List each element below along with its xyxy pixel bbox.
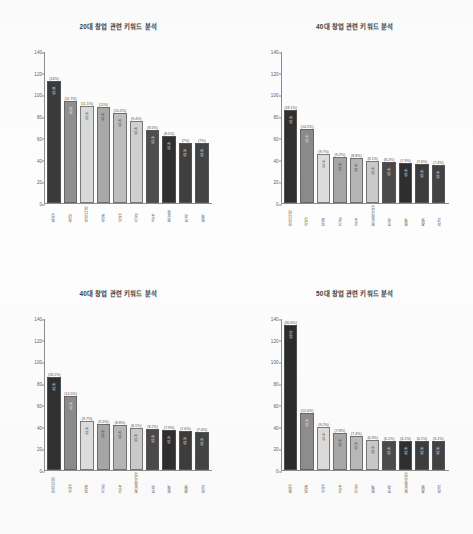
bar-percent-label: (9.7%) bbox=[82, 417, 93, 421]
x-axis-line bbox=[281, 203, 449, 204]
bar-percent-label: (8.1%) bbox=[367, 157, 378, 161]
bar[interactable]: (7.9%)사업 bbox=[399, 163, 412, 203]
x-axis-tick-label: 기술 bbox=[354, 473, 360, 493]
x-axis-tick-label: 교육 bbox=[338, 473, 344, 493]
bar[interactable]: (11.1%)사업 bbox=[80, 106, 93, 203]
bar[interactable]: (7.6%)사업 bbox=[179, 431, 192, 470]
x-axis-tick-label: 아이디어 bbox=[84, 206, 90, 222]
x-label-slot: 지원 bbox=[96, 206, 113, 222]
bar[interactable]: (12.0%)사업 bbox=[300, 413, 313, 470]
y-axis-tick: 40 bbox=[259, 158, 279, 163]
y-axis-tick: 40 bbox=[259, 425, 279, 430]
bar-percent-label: (18.1%) bbox=[48, 373, 61, 377]
x-label-slot: 경영 bbox=[415, 206, 432, 226]
bar-slot: (11.7%)청년 bbox=[62, 52, 78, 203]
bar[interactable]: (8.5%)사업 bbox=[146, 130, 159, 203]
y-axis-tick: 80 bbox=[259, 382, 279, 387]
bar-slot: (18.1%)사업 bbox=[46, 319, 62, 470]
bar[interactable]: (7%)사업 bbox=[179, 143, 192, 203]
bar[interactable]: (7.4%)사업 bbox=[432, 165, 445, 203]
bar[interactable]: (7.8%)사업 bbox=[333, 433, 346, 470]
x-label-slot: 교육 bbox=[349, 206, 366, 226]
bar-inline-label: 사업 bbox=[305, 419, 310, 427]
bar-inline-label: 사업 bbox=[370, 446, 375, 454]
bar[interactable]: (6.1%)사업 bbox=[432, 441, 445, 470]
bar[interactable]: (9.4%)사업 bbox=[130, 121, 143, 203]
x-axis-tick-label: 사업 bbox=[68, 473, 74, 493]
chart-title: 20대 창업 관련 키워드 분석 bbox=[0, 22, 237, 31]
bar-slot: (6.3%)사업 bbox=[365, 319, 381, 470]
bar[interactable]: (8.1%)사업 bbox=[366, 161, 379, 203]
bar[interactable]: (7.9%)사업 bbox=[162, 430, 175, 470]
bar-inline-label: 사업 bbox=[167, 436, 172, 444]
x-label-slot: 사업 bbox=[63, 473, 80, 493]
x-label-slot: 기술 bbox=[96, 473, 113, 493]
bar[interactable]: (14.5%)사업 bbox=[300, 129, 313, 203]
bar-slot: (9.4%)사업 bbox=[128, 52, 144, 203]
bar[interactable]: (8.2%)사업 bbox=[146, 429, 159, 470]
bar[interactable]: (6.3%)사업 bbox=[366, 440, 379, 470]
x-label-slot: 정책 bbox=[365, 473, 382, 493]
bar[interactable]: (8.8%)사업 bbox=[350, 158, 363, 203]
bar[interactable]: (18.1%)사업 bbox=[47, 377, 60, 470]
bar[interactable]: (8.8%)사업 bbox=[113, 425, 126, 470]
bar-slot: (8.1%)사업 bbox=[365, 52, 381, 203]
x-label-slot: 정보화사업 bbox=[129, 473, 146, 493]
bar[interactable]: (6.1%)사업 bbox=[399, 441, 412, 470]
bar-slot: (6.1%)사업 bbox=[430, 319, 446, 470]
bar-slot: (6.1%)사업 bbox=[397, 319, 413, 470]
bar[interactable]: (14.5%)사업 bbox=[64, 396, 77, 470]
bar[interactable]: (18.1%)사업 bbox=[284, 110, 297, 203]
x-axis-tick-label: 경영 bbox=[184, 473, 190, 493]
bar[interactable]: (9.2%)사업 bbox=[317, 427, 330, 470]
bar[interactable]: (9.7%)사업 bbox=[317, 154, 330, 203]
x-axis-tick-label: 정보화사업 bbox=[134, 473, 140, 493]
bar-inline-label: 사업 bbox=[52, 383, 57, 391]
bar[interactable]: (6.1%)사업 bbox=[415, 441, 428, 470]
bar[interactable]: (7.4%)사업 bbox=[350, 436, 363, 471]
bar-percent-label: (8.2%) bbox=[384, 158, 395, 162]
bar-inline-label: 사업 bbox=[68, 402, 73, 410]
x-axis-tick-label: 자금 bbox=[437, 206, 443, 226]
bar-slot: (9.2%)사업 bbox=[315, 319, 331, 470]
bar-percent-label: (30.6%) bbox=[284, 321, 297, 325]
bar-slot: (8.1%)사업 bbox=[128, 319, 144, 470]
bar[interactable]: (8.2%)사업 bbox=[382, 162, 395, 203]
bar[interactable]: (11.7%)청년 bbox=[64, 101, 77, 203]
x-label-slot: 사업 bbox=[316, 473, 333, 493]
bar-inline-label: 사업 bbox=[288, 116, 293, 124]
bar[interactable]: (7.6%)사업 bbox=[415, 164, 428, 203]
x-label-slot: 아이디어 bbox=[46, 473, 63, 493]
bar-slot: (14.5%)사업 bbox=[299, 52, 315, 203]
bar[interactable]: (8.1%)사업 bbox=[130, 428, 143, 470]
bar[interactable]: (9.2%)사업 bbox=[333, 157, 346, 203]
y-axis-tick: 140 bbox=[259, 317, 279, 322]
bar[interactable]: (9.7%)사업 bbox=[80, 421, 93, 470]
x-label-slot: 정보화 bbox=[162, 206, 179, 222]
bar-percent-label: (6.1%) bbox=[417, 437, 428, 441]
x-axis-tick-label: 투자 bbox=[151, 473, 157, 493]
y-axis-tick: 0 bbox=[22, 469, 42, 474]
x-axis-labels: 창업지원사업교육기술정책투자정보화사업경영자금 bbox=[283, 473, 449, 493]
y-axis-tick: 140 bbox=[22, 317, 42, 322]
bar-inline-label: 사업 bbox=[101, 113, 106, 121]
bar[interactable]: (10.2%)사업 bbox=[113, 113, 126, 203]
bar-slot: (7.4%)사업 bbox=[348, 319, 364, 470]
y-axis-line bbox=[44, 52, 45, 204]
bar-slot: (8.5%)사업 bbox=[161, 52, 177, 203]
bar[interactable]: (6.1%)사업 bbox=[382, 441, 395, 470]
bar-series: (14%)취업(11.7%)청년(11.1%)사업(11%)사업(10.2%)사… bbox=[46, 52, 210, 203]
bar[interactable]: (14%)취업 bbox=[47, 81, 60, 203]
bar[interactable]: (11%)사업 bbox=[97, 107, 110, 203]
bar-percent-label: (7.8%) bbox=[335, 429, 346, 433]
bar[interactable]: (8.5%)사업 bbox=[162, 136, 175, 203]
bar-slot: (7.4%)사업 bbox=[430, 52, 446, 203]
x-label-slot: 아이디어 bbox=[79, 206, 96, 222]
x-label-slot: 지원 bbox=[79, 473, 96, 493]
bar[interactable]: (7%)사업 bbox=[195, 143, 208, 203]
bar-percent-label: (11.1%) bbox=[81, 102, 93, 106]
bar[interactable]: (30.6%)창업 bbox=[284, 325, 297, 470]
x-axis-tick-label: 아이디어 bbox=[288, 206, 294, 226]
bar[interactable]: (9.2%)사업 bbox=[97, 424, 110, 470]
bar[interactable]: (7.4%)사업 bbox=[195, 432, 208, 470]
